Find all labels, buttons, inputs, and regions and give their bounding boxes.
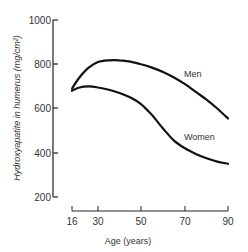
x-tick: 90 bbox=[222, 216, 234, 227]
x-tick: 50 bbox=[135, 216, 147, 227]
series-label-women: Women bbox=[184, 132, 215, 142]
x-tick: 30 bbox=[92, 216, 104, 227]
y-tick: 800 bbox=[34, 59, 51, 70]
chart: 1000 800 600 400 200 Hydroxyapatite in h… bbox=[0, 0, 248, 252]
y-tick: 1000 bbox=[29, 15, 52, 26]
series-label-men: Men bbox=[184, 69, 202, 79]
y-tick: 600 bbox=[34, 103, 51, 114]
y-tick-labels: 1000 800 600 400 200 bbox=[29, 15, 52, 203]
y-axis-label: Hydroxyapatite in humerus (mg/cm²) bbox=[12, 35, 22, 181]
x-axis-label: Age (years) bbox=[105, 236, 152, 246]
x-tick: 70 bbox=[179, 216, 191, 227]
x-axis bbox=[72, 206, 228, 211]
x-tick: 16 bbox=[66, 216, 78, 227]
series-men-line bbox=[72, 60, 228, 118]
x-tick-labels: 16 30 50 70 90 bbox=[66, 216, 234, 227]
y-axis bbox=[53, 20, 58, 197]
y-tick: 200 bbox=[34, 192, 51, 203]
y-tick: 400 bbox=[34, 148, 51, 159]
